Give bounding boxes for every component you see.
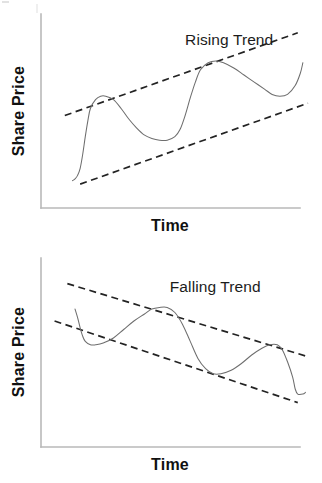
chart-panel-falling-trend: Falling Trend Share Price Time [0,242,322,483]
y-axis-label: Share Price [10,307,27,397]
figure-root: Rising Trend Share Price Time Falling Tr… [0,0,322,483]
y-axis-label: Share Price [10,66,27,156]
chart-title-falling-trend: Falling Trend [170,278,261,295]
x-axis-label: Time [151,217,189,234]
x-axis-label: Time [151,456,189,473]
lower-support-trendline [80,103,308,184]
chart-panel-rising-trend: Rising Trend Share Price Time [0,0,322,241]
chart-title-rising-trend: Rising Trend [185,31,273,48]
rising-trend-chart: Rising Trend Share Price Time [0,0,322,241]
share-price-curve [72,61,302,181]
falling-trend-chart: Falling Trend Share Price Time [0,242,322,483]
lower-support-trendline [55,321,298,403]
